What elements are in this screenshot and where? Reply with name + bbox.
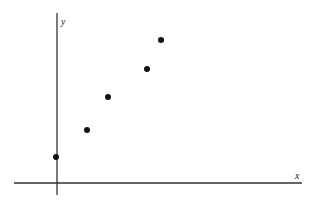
- y-axis-label: y: [60, 16, 66, 27]
- scatter-plot: y x: [0, 0, 318, 200]
- data-points: [53, 37, 164, 160]
- data-point: [144, 66, 150, 72]
- data-point: [105, 94, 111, 100]
- data-point: [53, 154, 59, 160]
- data-point: [84, 127, 90, 133]
- x-axis-label: x: [294, 170, 300, 181]
- data-point: [158, 37, 164, 43]
